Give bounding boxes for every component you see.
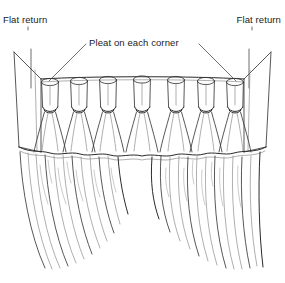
flat-return-right-panel — [244, 52, 271, 152]
label-pleat-on-each-corner: Pleat on each corner — [89, 38, 179, 48]
flat-return-left-panel — [14, 52, 41, 152]
valance-hem — [19, 147, 266, 160]
drapery-panel-right — [151, 152, 263, 269]
pleat-2 — [63, 77, 95, 152]
pleat-5 — [160, 76, 192, 152]
label-flat-return-right: Flat return — [237, 15, 281, 25]
pleat-7 — [219, 78, 251, 152]
label-flat-return-left: Flat return — [3, 15, 47, 25]
pleat-4 — [126, 76, 158, 152]
curtain-diagram-figure: .ink { fill:none; stroke:#3a3a3a; stroke… — [0, 0, 285, 283]
pleat-1 — [34, 78, 66, 152]
pleat-3 — [92, 76, 124, 152]
drapery-panel-left — [20, 152, 128, 269]
pleat-6 — [190, 77, 222, 152]
